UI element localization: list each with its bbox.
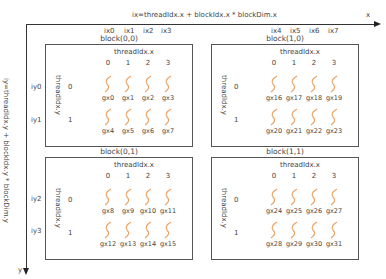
column-index: 2 [304,172,324,180]
column-index: 1 [284,59,304,67]
thread-wave-icon [123,75,133,93]
iy-label: iy1 [31,117,42,124]
thread: gx31 [324,221,344,251]
threadidx-x-label: threadIdx.x [212,48,358,56]
threadidx-y-label: threadIdx.y [54,75,62,115]
thread-wave-icon [143,221,153,239]
thread: gx1 [118,75,138,105]
thread: gx28 [264,221,284,251]
column-index: 0 [264,59,284,67]
column-index: 2 [138,172,158,180]
thread-wave-icon [123,188,133,206]
thread-wave-icon [309,221,319,239]
row-index: 1 [68,229,72,237]
column-index: 3 [324,172,344,180]
thread-wave-icon [269,188,279,206]
thread-wave-icon [163,221,173,239]
thread: gx21 [284,108,304,138]
thread: gx19 [324,75,344,105]
column-index: 3 [324,59,344,67]
threadidx-x-label: threadIdx.x [46,161,192,169]
threadidx-y-label: threadIdx.y [54,188,62,228]
thread-wave-icon [123,221,133,239]
thread-wave-icon [269,108,279,126]
row-index: 0 [68,196,72,204]
row-index: 1 [234,229,238,237]
thread: gx22 [304,108,324,138]
thread: gx16 [264,75,284,105]
thread: gx20 [264,108,284,138]
thread-wave-icon [289,188,299,206]
thread: gx6 [138,108,158,138]
thread-global-index: gx27 [322,207,346,215]
row-index: 0 [68,83,72,91]
thread: gx3 [158,75,178,105]
thread: gx24 [264,188,284,218]
threadidx-y-label: threadIdx.y [220,188,228,228]
column-indices: 0123 [98,172,178,180]
thread-wave-icon [123,108,133,126]
column-index: 3 [158,172,178,180]
column-index: 0 [98,172,118,180]
thread-wave-icon [269,221,279,239]
thread: gx4 [98,108,118,138]
iy-label: iy2 [31,196,42,203]
thread-wave-icon [329,75,339,93]
threadidx-x-label: threadIdx.x [46,48,192,56]
thread-wave-icon [103,108,113,126]
thread-global-index: gx19 [322,94,346,102]
column-index: 0 [264,172,284,180]
thread-wave-icon [163,188,173,206]
thread: gx8 [98,188,118,218]
y-axis-line [26,24,27,270]
block-label: block(1,1) [211,147,359,156]
thread-wave-icon [143,108,153,126]
thread: gx9 [118,188,138,218]
column-index: 1 [118,172,138,180]
block-label: block(0,0) [45,34,193,43]
thread: gx25 [284,188,304,218]
x-axis-arrow-icon [374,21,381,27]
thread: gx13 [118,221,138,251]
thread-wave-icon [329,188,339,206]
thread-wave-icon [163,75,173,93]
row-index: 1 [234,116,238,124]
thread-global-index: gx23 [322,127,346,135]
row-index: 0 [234,196,238,204]
thread-wave-icon [289,75,299,93]
thread-wave-icon [309,75,319,93]
x-axis-line [26,24,376,25]
thread-wave-icon [289,108,299,126]
thread: gx0 [98,75,118,105]
thread: gx23 [324,108,344,138]
thread-global-index: gx7 [156,127,180,135]
row-index: 0 [234,83,238,91]
y-index-formula: iy=threadIdx.y + blockIdx.y * blockDim.y [2,60,10,240]
thread: gx17 [284,75,304,105]
thread-wave-icon [309,108,319,126]
thread-wave-icon [269,75,279,93]
thread-global-index: gx15 [156,240,180,248]
thread: gx5 [118,108,138,138]
thread-block: threadIdx.x0123threadIdx.y01gx0gx1gx2gx3… [45,44,193,147]
thread: gx10 [138,188,158,218]
iy-label: iy0 [31,84,42,91]
row-index: 1 [68,116,72,124]
column-index: 1 [118,59,138,67]
thread-global-index: gx31 [322,240,346,248]
thread-wave-icon [103,188,113,206]
threadidx-x-label: threadIdx.x [212,161,358,169]
thread-wave-icon [143,75,153,93]
x-axis-label: x [366,12,370,19]
thread-wave-icon [289,221,299,239]
thread-wave-icon [309,188,319,206]
column-index: 1 [284,172,304,180]
thread: gx11 [158,188,178,218]
thread-wave-icon [103,75,113,93]
thread: gx7 [158,108,178,138]
column-indices: 0123 [264,172,344,180]
block-label: block(1,0) [211,34,359,43]
y-axis-label: y [18,267,22,274]
thread: gx14 [138,221,158,251]
column-indices: 0123 [98,59,178,67]
